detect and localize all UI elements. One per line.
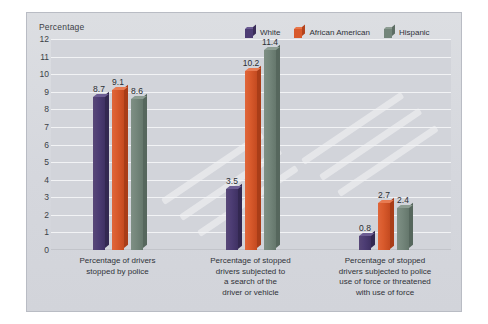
category-label-stopped-by-police: Percentage of drivers stopped by police [51,256,184,277]
legend-swatch-white-icon [245,27,256,38]
y-tick-10: 10 [27,69,49,79]
bar-hispanic-0[interactable] [131,99,143,250]
bar-label-hispanic-0: 8.6 [122,86,152,96]
bar-african-american-0[interactable] [112,90,124,250]
category-line: use of force or threatened [315,277,455,288]
bar-label-hispanic-2: 2.4 [388,195,418,205]
y-tick-12: 12 [27,34,49,44]
category-label-use-of-force: Percentage of stopped drivers subjected … [315,256,455,298]
category-line: drivers subjected to [184,267,317,278]
category-line: with use of force [315,288,455,299]
legend-item-hispanic[interactable]: Hispanic [384,27,430,38]
y-axis-title: Percentage [39,22,84,32]
y-tick-0: 0 [27,245,49,255]
legend-swatch-african-american-icon [294,27,305,38]
chart-panel: Percentage White African American [26,12,462,312]
bar-white-1[interactable] [226,189,238,251]
y-tick-2: 2 [27,209,49,219]
bar-group-use-of-force: 0.8 2.7 2.4 [317,39,450,250]
y-tick-11: 11 [27,51,49,61]
y-tick-7: 7 [27,121,49,131]
y-tick-9: 9 [27,86,49,96]
category-line: Percentage of drivers [51,256,184,267]
y-tick-5: 5 [27,157,49,167]
legend-item-african-american[interactable]: African American [294,27,369,38]
y-tick-6: 6 [27,139,49,149]
bar-label-hispanic-1: 11.4 [255,39,285,47]
legend-item-white[interactable]: White [245,27,280,38]
y-tick-3: 3 [27,192,49,202]
plot-area: 8.7 9.1 8.6 [51,39,451,250]
bar-white-2[interactable] [359,236,371,250]
bar-african-american-2[interactable] [378,203,390,251]
bar-group-stopped-by-police: 8.7 9.1 8.6 [51,39,184,250]
bar-hispanic-1[interactable] [264,50,276,250]
y-tick-1: 1 [27,227,49,237]
category-line: stopped by police [51,267,184,278]
bar-label-african-american-1: 10.2 [236,58,266,68]
x-axis-category-labels: Percentage of drivers stopped by police … [51,256,451,308]
bar-hispanic-2[interactable] [397,208,409,250]
category-line: drivers subjected to police [315,267,455,278]
y-tick-4: 4 [27,174,49,184]
bar-label-white-2: 0.8 [350,223,380,233]
legend-label-white: White [260,28,280,37]
legend-swatch-hispanic-icon [384,27,395,38]
bar-label-white-1: 3.5 [217,176,247,186]
category-line: a search of the [184,277,317,288]
category-line: driver or vehicle [184,288,317,299]
bar-white-0[interactable] [93,97,105,250]
category-label-search: Percentage of stopped drivers subjected … [184,256,317,298]
legend-label-african-american: African American [309,28,369,37]
chart-legend: White African American Hispanic [245,24,430,40]
category-line: Percentage of stopped [184,256,317,267]
y-tick-8: 8 [27,104,49,114]
category-line: Percentage of stopped [315,256,455,267]
bar-group-search: 3.5 10.2 11.4 [184,39,317,250]
legend-label-hispanic: Hispanic [399,28,430,37]
chart-figure: Percentage White African American [0,0,488,324]
bar-african-american-1[interactable] [245,71,257,250]
